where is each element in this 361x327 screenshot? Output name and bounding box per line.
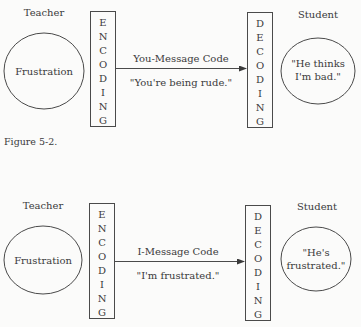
encoding-letters: E N C O D I N G <box>98 209 107 318</box>
figure-you-message: Teacher Frustration E N C O D I N G You-… <box>4 7 355 128</box>
receiver-interpretation-line-1: "He thinks <box>291 58 345 69</box>
svg-text:G: G <box>256 116 264 127</box>
svg-text:E: E <box>254 225 261 236</box>
svg-text:N: N <box>99 101 108 112</box>
svg-text:D: D <box>254 267 262 278</box>
svg-text:C: C <box>99 45 107 56</box>
encoding-letters: E N C O D I N G <box>99 17 108 126</box>
receiver-interpretation-line-2: I'm bad." <box>295 71 341 82</box>
sender-feeling: Frustration <box>15 66 73 77</box>
svg-text:G: G <box>254 309 262 320</box>
svg-text:E: E <box>99 17 106 28</box>
svg-text:D: D <box>99 73 107 84</box>
svg-text:C: C <box>98 237 106 248</box>
svg-text:E: E <box>98 209 105 220</box>
diagram-canvas: Teacher Frustration E N C O D I N G You-… <box>0 0 361 327</box>
svg-text:C: C <box>254 239 262 250</box>
message-text: "I'm frustrated." <box>137 270 220 281</box>
receiver-label: Student <box>297 201 337 212</box>
message-text: "You're being rude." <box>130 77 232 88</box>
svg-text:I: I <box>256 281 260 292</box>
svg-text:O: O <box>254 253 262 264</box>
svg-text:N: N <box>98 223 107 234</box>
code-label: You-Message Code <box>132 53 229 64</box>
receiver-interpretation-line-1: "He's <box>302 247 329 258</box>
svg-text:N: N <box>98 293 107 304</box>
sender-label: Teacher <box>24 7 65 18</box>
receiver-ellipse <box>281 227 351 291</box>
svg-text:D: D <box>254 211 262 222</box>
svg-text:N: N <box>256 102 265 113</box>
receiver-label: Student <box>298 9 338 20</box>
sender-feeling: Frustration <box>14 255 72 266</box>
svg-text:D: D <box>256 74 264 85</box>
code-label: I-Message Code <box>137 246 218 257</box>
svg-text:D: D <box>98 265 106 276</box>
svg-text:D: D <box>256 18 264 29</box>
svg-text:G: G <box>98 307 106 318</box>
figure-caption: Figure 5-2. <box>4 136 57 147</box>
sender-label: Teacher <box>23 200 64 211</box>
decoding-letters: D E C O D I N G <box>256 18 265 127</box>
decoding-letters: D E C O D I N G <box>254 211 263 320</box>
svg-text:N: N <box>254 295 263 306</box>
svg-text:G: G <box>99 115 107 126</box>
svg-text:O: O <box>99 59 107 70</box>
svg-text:E: E <box>256 32 263 43</box>
svg-text:O: O <box>256 60 264 71</box>
receiver-interpretation-line-2: frustrated." <box>287 260 346 271</box>
svg-text:N: N <box>99 31 108 42</box>
svg-text:O: O <box>98 251 106 262</box>
svg-text:C: C <box>256 46 264 57</box>
svg-text:I: I <box>258 88 262 99</box>
svg-text:I: I <box>100 279 104 290</box>
svg-text:I: I <box>101 87 105 98</box>
figure-i-message: Teacher Frustration E N C O D I N G I-Me… <box>4 200 351 321</box>
